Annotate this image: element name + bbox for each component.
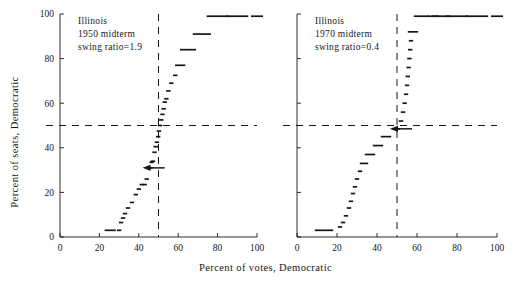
x-tick-label-right-20: 20 — [332, 243, 342, 253]
x-tick-label-left-100: 100 — [250, 243, 265, 253]
annotation-line-right-1: 1970 midterm — [315, 29, 372, 39]
y-tick-label-40: 40 — [45, 143, 55, 153]
annotation-line-left-2: swing ratio=1.9 — [78, 42, 142, 52]
y-tick-label-80: 80 — [45, 54, 55, 64]
x-tick-label-left-20: 20 — [95, 243, 105, 253]
x-tick-label-right-40: 40 — [372, 243, 382, 253]
seat-vote-curve-figure: Percent of seats, Democratic Percent of … — [0, 0, 531, 284]
crossing-arrow-head — [390, 126, 398, 132]
annotation-line-right-0: Illinois — [315, 16, 344, 26]
x-tick-label-right-60: 60 — [412, 243, 422, 253]
panel-right: 020406080100Illinois1970 midtermswing ra… — [283, 14, 504, 253]
x-tick-label-left-0: 0 — [58, 243, 63, 253]
y-tick-label-100: 100 — [40, 9, 55, 19]
annotation-line-left-0: Illinois — [78, 16, 107, 26]
x-tick-label-left-80: 80 — [213, 243, 223, 253]
x-tick-label-left-60: 60 — [173, 243, 183, 253]
y-tick-label-60: 60 — [45, 99, 55, 109]
y-tick-label-0: 0 — [49, 232, 54, 242]
annotation-line-right-2: swing ratio=0.4 — [315, 42, 379, 52]
crossing-arrow-head — [143, 165, 151, 171]
x-tick-label-right-80: 80 — [452, 243, 462, 253]
chart-canvas: 020406080100020406080100Illinois1950 mid… — [0, 0, 531, 284]
crossing-arrow-left — [143, 165, 165, 171]
crossing-arrow-right — [390, 126, 412, 132]
x-tick-label-left-40: 40 — [134, 243, 144, 253]
annotation-line-left-1: 1950 midterm — [78, 29, 135, 39]
x-tick-label-right-100: 100 — [490, 243, 505, 253]
panel-left: 020406080100020406080100Illinois1950 mid… — [40, 9, 265, 253]
x-tick-label-right-0: 0 — [295, 243, 300, 253]
y-tick-label-20: 20 — [45, 188, 55, 198]
